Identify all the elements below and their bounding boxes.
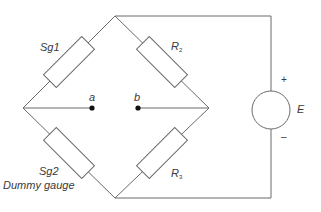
label-r3-main: R [171, 167, 179, 179]
label-r3-sub: 3 [179, 174, 182, 180]
label-node-b: b [134, 92, 140, 103]
wire-supply-top [115, 16, 271, 91]
label-node-a: a [89, 92, 95, 103]
label-sg2: Sg2 [39, 166, 59, 177]
node-b-dot [135, 105, 140, 110]
minus-sign: – [281, 132, 287, 142]
label-r2-main: R [171, 40, 179, 52]
label-r3: R3 [171, 168, 182, 180]
plus-sign: + [281, 75, 287, 85]
label-r2-sub: 2 [179, 47, 182, 53]
label-dummy-gauge: Dummy gauge [3, 180, 75, 191]
label-source-e: E [297, 104, 304, 115]
label-r2: R2 [171, 41, 182, 53]
node-a-dot [89, 105, 94, 110]
label-sg1: Sg1 [40, 42, 60, 53]
voltage-source-icon [252, 91, 290, 129]
